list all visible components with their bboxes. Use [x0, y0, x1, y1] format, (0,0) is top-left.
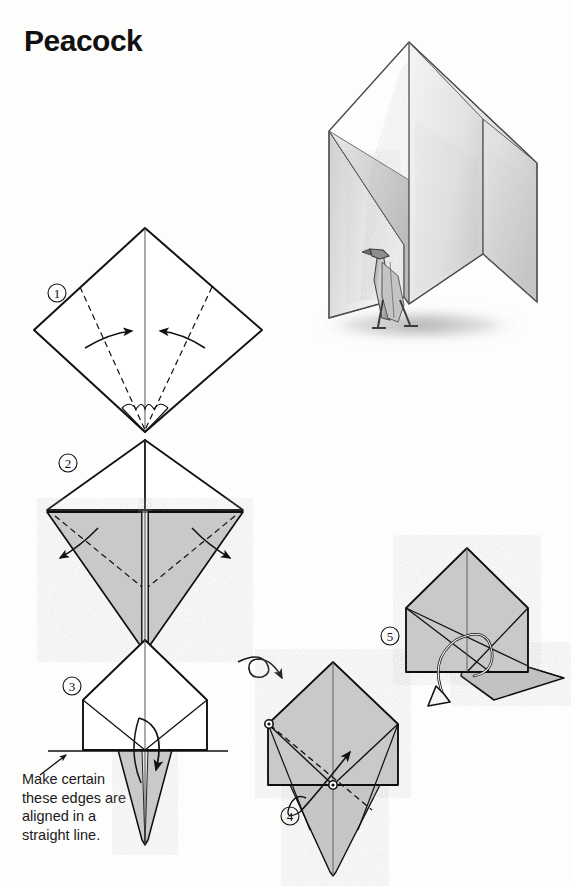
step-1-diagram: 1 [34, 228, 262, 432]
step-2-diagram: 2 [47, 440, 243, 655]
step-4-reference-dot-lower [331, 783, 334, 786]
step-4-diagram: 4 [265, 662, 398, 876]
step-2-upper-right-face [145, 440, 243, 510]
step-4-reference-dot-upper [267, 722, 270, 725]
step-5-diagram: 5 [381, 548, 564, 706]
step-4-number: 4 [287, 809, 294, 824]
turn-over-loop [238, 657, 282, 678]
step-1-paper [34, 228, 262, 432]
page-canvas: Peacock Make certain these edges are ali… [0, 0, 571, 886]
step-2-number: 2 [65, 456, 72, 471]
step-1-number: 1 [54, 286, 61, 301]
turn-over-symbol [238, 657, 282, 678]
finished-peacock-illustration [315, 42, 537, 342]
step-4-lower-point [290, 785, 380, 876]
step-5-pull-out-arrowhead [428, 686, 450, 706]
diagram-layer: 1 2 [0, 0, 571, 886]
step-3-number: 3 [69, 679, 76, 694]
step-3-caption-pointer [40, 755, 66, 775]
step-3-diagram: 3 [40, 640, 228, 845]
step-5-number: 5 [387, 629, 394, 644]
step-2-upper-left-face [47, 440, 145, 510]
